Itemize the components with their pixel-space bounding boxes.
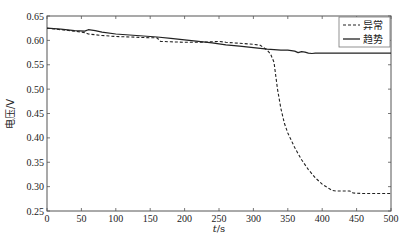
series-layer [47,28,391,193]
x-tick-label: 50 [76,213,86,224]
y-tick-label: 0.60 [27,35,45,46]
legend: 异常 趋势 [339,17,390,47]
x-tick-label: 200 [177,213,192,224]
y-tick-label: 0.25 [27,206,45,217]
legend-label-abnormal: 异常 [363,19,383,31]
legend-label-trend: 趋势 [363,33,383,45]
y-tick-label: 0.35 [27,157,45,168]
x-tick-label: 300 [246,213,261,224]
y-tick-label: 0.40 [27,132,45,143]
x-tick-label: 350 [280,213,295,224]
x-tick-label: 0 [45,213,50,224]
x-tick-label: 100 [108,213,123,224]
voltage-chart: 0.250.300.350.400.450.500.550.600.65 050… [0,0,404,245]
x-tick-label: 450 [349,213,364,224]
x-tick-label: 400 [315,213,330,224]
y-axis-label: 电压/V [4,99,16,129]
y-tick-label: 0.45 [27,108,45,119]
y-tick-label: 0.55 [27,59,45,70]
y-tick-label: 0.50 [27,84,45,95]
y-axis: 0.250.300.350.400.450.500.550.600.65 [27,11,392,217]
y-tick-label: 0.65 [27,11,45,22]
y-tick-label: 0.30 [27,181,45,192]
x-axis-label: t/s [213,223,226,234]
x-tick-label: 150 [143,213,158,224]
x-tick-label: 500 [384,213,399,224]
